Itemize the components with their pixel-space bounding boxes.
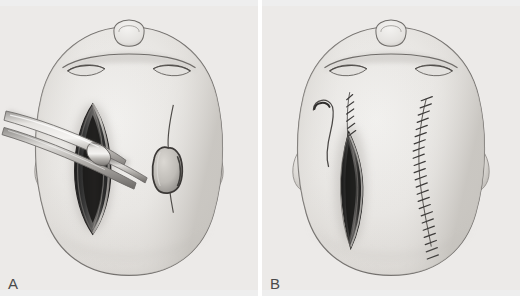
head-outline: [298, 27, 485, 276]
panel-a-label: A: [8, 276, 18, 291]
panel-b-artwork: [262, 0, 520, 296]
panel-b: B: [262, 0, 520, 296]
nose: [114, 20, 144, 46]
surgical-illustration-figure: A: [0, 0, 520, 296]
panel-b-label: B: [270, 276, 280, 291]
nose: [376, 20, 406, 46]
panel-a: A: [0, 0, 258, 296]
panel-a-artwork: [0, 0, 258, 296]
